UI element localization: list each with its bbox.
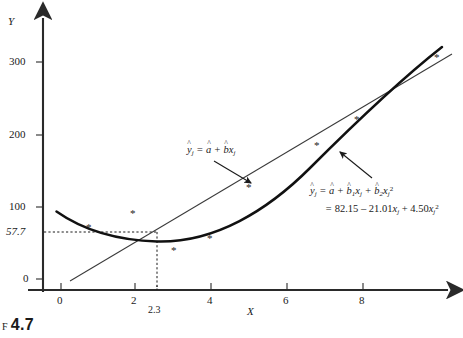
x-tick-label-2-3: 2.3 <box>148 305 161 315</box>
y-axis-title: Y <box>8 16 14 27</box>
data-point: * <box>314 140 320 151</box>
quadratic-equation-label-line1: yj = a + b1xj + b2xj2 <box>310 186 393 198</box>
y-tick-label-100: 100 <box>9 201 26 212</box>
data-point: * <box>207 233 213 244</box>
linear-equation-arrow <box>214 161 251 183</box>
data-point: * <box>354 114 360 125</box>
x-tick-label-2: 2 <box>131 295 137 306</box>
x-tick-label-6: 6 <box>283 295 289 306</box>
x-axis-title: X <box>247 306 254 317</box>
quadratic-equation-label-line2: = 82.15 – 21.01xj + 4.50xj2 <box>325 204 439 216</box>
quadratic-equation-arrow <box>340 152 372 178</box>
quad-plus: + <box>402 203 408 214</box>
data-point: * <box>171 245 177 256</box>
data-point: * <box>130 208 136 219</box>
quad-b1: 21.01 <box>369 203 393 214</box>
x-tick-label-0: 0 <box>57 295 63 306</box>
quad-b2: 4.50 <box>410 203 428 214</box>
y-tick-label-0: 0 <box>23 273 29 284</box>
y-tick-label-300: 300 <box>9 56 26 67</box>
data-point: * <box>434 52 440 63</box>
quad-intercept: 82.15 <box>335 203 359 214</box>
chart-canvas <box>0 0 463 338</box>
data-point: * <box>86 222 92 233</box>
figure-caption: F 4.7 <box>2 316 34 334</box>
x-tick-label-4: 4 <box>207 295 213 306</box>
linear-equation-label: yj = a + bxj <box>187 145 235 157</box>
y-tick-label-57-7: 57.7 <box>6 226 25 237</box>
quad-minus: – <box>361 203 366 214</box>
figure-container: Y X 0 100 200 300 57.7 0 2 4 6 8 2.3 * *… <box>0 0 463 338</box>
figure-caption-prefix: F <box>2 321 8 332</box>
y-tick-label-200: 200 <box>9 129 26 140</box>
figure-caption-number: 4.7 <box>11 316 34 333</box>
x-tick-label-8: 8 <box>359 295 365 306</box>
data-point: * <box>246 182 252 193</box>
